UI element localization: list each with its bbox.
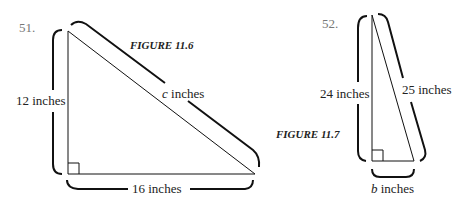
- right-triangle-51: [68, 31, 255, 174]
- label-horizontal-leg: b inches: [371, 181, 414, 196]
- figure-11-6: 51. FIGURE 11.6 12 inches c inches 16 in…: [16, 20, 259, 196]
- label-hypotenuse: 25 inches: [402, 82, 451, 97]
- brace-vertical-top: [53, 30, 62, 90]
- brace-horizontal-right: [190, 180, 253, 189]
- figure-caption-11-6: FIGURE 11.6: [129, 39, 194, 51]
- brace-horizontal: [372, 169, 414, 177]
- brace-hypotenuse-bottom: [411, 102, 425, 161]
- brace-vertical-bottom: [358, 104, 366, 161]
- brace-vertical-top: [358, 16, 367, 82]
- brace-horizontal-left: [67, 180, 128, 189]
- label-vertical-leg: 24 inches: [320, 86, 369, 101]
- figure-caption-11-7: FIGURE 11.7: [275, 128, 340, 140]
- figures-canvas: 51. FIGURE 11.6 12 inches c inches 16 in…: [0, 0, 460, 207]
- brace-hypotenuse-top: [71, 22, 165, 83]
- label-vertical-leg: 12 inches: [16, 93, 65, 108]
- figure-11-7: 52. FIGURE 11.7 24 inches 25 inches b in…: [275, 14, 451, 196]
- brace-vertical-bottom: [53, 112, 62, 174]
- right-angle-marker: [68, 163, 79, 174]
- label-hypotenuse: c inches: [162, 86, 204, 101]
- problem-number-51: 51.: [19, 20, 35, 35]
- label-horizontal-leg: 16 inches: [132, 181, 181, 196]
- brace-hypotenuse-top: [378, 14, 403, 78]
- right-angle-marker: [372, 150, 383, 161]
- problem-number-52: 52.: [322, 16, 338, 31]
- brace-hypotenuse-bottom: [188, 101, 259, 167]
